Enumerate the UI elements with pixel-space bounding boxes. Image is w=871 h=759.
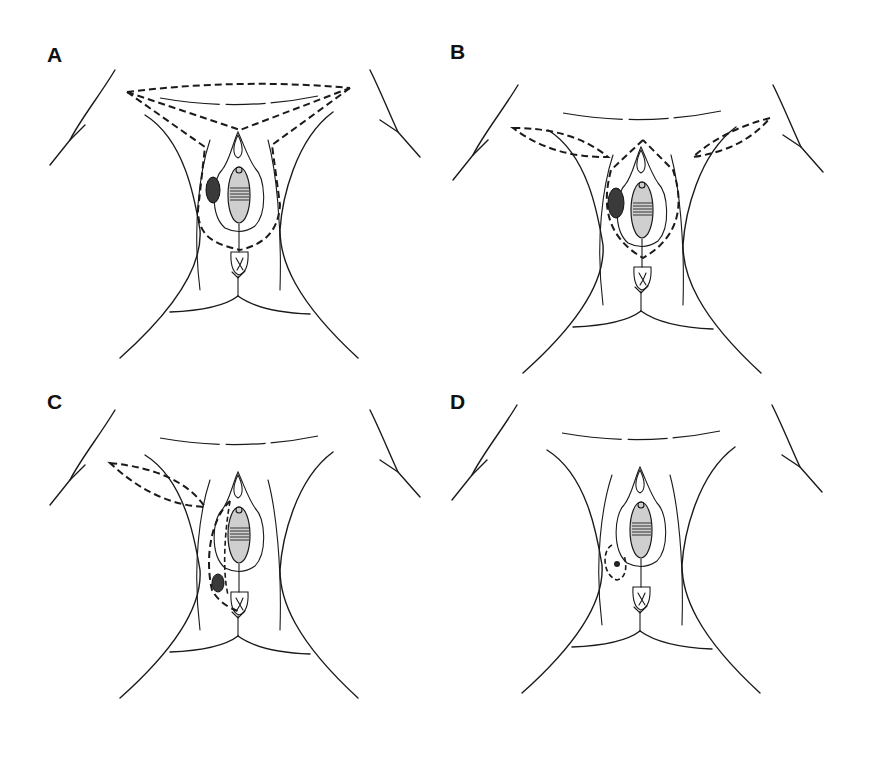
left-thigh-curve [523, 130, 603, 373]
tumor-lesion [206, 177, 220, 203]
tumor-lesion [608, 188, 624, 218]
panel-b: B [435, 0, 870, 380]
vaginal-introitus [630, 502, 652, 558]
left-buttock-line [573, 311, 641, 327]
left-labia-majora [600, 155, 613, 305]
tumor-lesion [614, 561, 620, 567]
abdominal-line [160, 436, 318, 445]
right-labia-majora [268, 480, 280, 630]
left-hip-crease [50, 410, 115, 505]
anal-folds [639, 273, 646, 285]
flap-incision-upper-v [127, 88, 350, 130]
left-labia-majora [599, 475, 612, 625]
right-buttock-line [238, 636, 310, 654]
panel-d-drawing [435, 380, 871, 759]
flap-incision-top [127, 84, 350, 92]
right-hip-crease [370, 410, 420, 497]
anal-folds [236, 598, 243, 610]
panel-c: C [0, 380, 435, 759]
anal-folds [236, 258, 243, 270]
left-thigh-curve [522, 450, 602, 693]
right-hip-crease [772, 405, 822, 492]
left-flap-incision [110, 463, 205, 507]
left-thigh-curve [120, 115, 200, 358]
right-buttock-line [640, 631, 712, 649]
panel-c-drawing [0, 380, 435, 759]
left-thigh-curve [120, 455, 200, 698]
panel-a: A [0, 0, 435, 380]
panel-b-drawing [435, 0, 871, 380]
right-hip-crease [773, 85, 823, 172]
vaginal-introitus [228, 167, 250, 223]
panel-a-drawing [0, 0, 435, 380]
right-thigh-curve [683, 127, 761, 373]
left-labia-majora [197, 480, 210, 630]
right-thigh-curve [682, 447, 760, 693]
right-thigh-curve [280, 112, 358, 358]
left-flap-incision [513, 128, 608, 157]
vaginal-introitus [228, 507, 250, 563]
right-buttock-line [641, 311, 713, 329]
left-buttock-line [170, 636, 238, 652]
vaginal-introitus [631, 182, 653, 238]
left-hip-crease [453, 85, 518, 180]
anal-folds [638, 593, 645, 605]
abdominal-line [160, 96, 318, 105]
tumor-lesion [212, 574, 224, 592]
right-buttock-line [238, 296, 310, 314]
right-labia-majora [670, 475, 682, 625]
right-thigh-curve [280, 452, 358, 698]
left-hip-crease [50, 70, 115, 165]
right-labia-majora [671, 155, 683, 305]
abdominal-line [562, 431, 720, 440]
right-hip-crease [370, 70, 420, 157]
abdominal-line [563, 111, 721, 120]
left-hip-crease [452, 405, 517, 500]
left-buttock-line [170, 296, 238, 312]
left-buttock-line [572, 631, 640, 647]
panel-d: D [435, 380, 870, 759]
right-flap-incision [693, 118, 770, 157]
